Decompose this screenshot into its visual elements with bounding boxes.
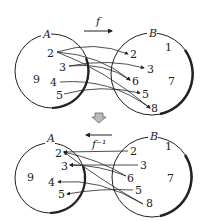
b-element: 1 — [165, 41, 172, 54]
b-element: 7 — [167, 172, 174, 185]
a-element: 5 — [58, 188, 65, 201]
b-element: 7 — [168, 75, 175, 88]
b-element: 2 — [130, 145, 137, 158]
b-element: 2 — [130, 48, 137, 61]
set-a-label: A — [46, 132, 55, 145]
b-element: 1 — [165, 140, 172, 153]
a-element: 4 — [50, 76, 57, 89]
b-element: 6 — [127, 172, 134, 185]
b-element: 8 — [146, 197, 153, 210]
top-diagram: f A B 2 3 9 4 5 2 1 3 6 7 5 8 — [15, 15, 193, 115]
b-element: 8 — [151, 102, 158, 115]
b-element: 3 — [147, 63, 154, 76]
inverse-function-label: f⁻¹ — [91, 138, 106, 151]
a-element: 2 — [47, 47, 54, 60]
a-element: 4 — [48, 176, 55, 189]
b-element: 6 — [132, 75, 139, 88]
a-element: 3 — [59, 61, 66, 74]
b-element: 5 — [135, 184, 142, 197]
a-element: 9 — [27, 171, 34, 184]
set-b-label: B — [148, 27, 157, 40]
a-element: 9 — [33, 73, 40, 86]
b-element: 3 — [140, 159, 147, 172]
set-b-label: B — [149, 130, 158, 143]
down-arrow-icon — [92, 113, 106, 123]
a-element: 5 — [56, 89, 63, 102]
a-element: 2 — [55, 147, 62, 160]
set-a-label: A — [42, 28, 51, 41]
a-element: 3 — [61, 160, 68, 173]
function-label: f — [95, 15, 102, 28]
b-element: 5 — [142, 88, 149, 101]
inverse-function-diagram: f A B 2 3 9 4 5 2 1 3 6 7 5 8 — [0, 0, 204, 221]
bottom-diagram: f⁻¹ A B 2 3 9 4 5 2 1 3 6 7 5 8 — [15, 130, 192, 217]
